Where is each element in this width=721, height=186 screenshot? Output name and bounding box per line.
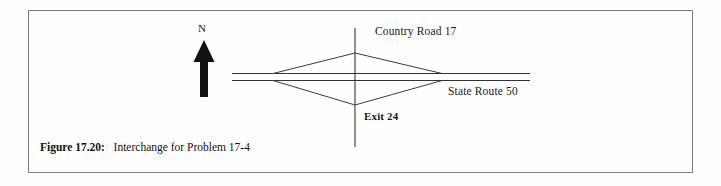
country-road-label: Country Road 17 (375, 25, 456, 37)
figure-caption-label: Figure 17.20: (40, 141, 111, 153)
figure-caption-text: Interchange for Problem 17-4 (114, 141, 250, 153)
figure-page: N Country Road 17 State Route 50 Exit 24… (0, 0, 721, 186)
north-arrow-label: N (198, 22, 206, 34)
exit-label: Exit 24 (364, 110, 398, 122)
figure-caption: Figure 17.20: Interchange for Problem 17… (40, 141, 250, 153)
state-route-label: State Route 50 (448, 85, 518, 97)
